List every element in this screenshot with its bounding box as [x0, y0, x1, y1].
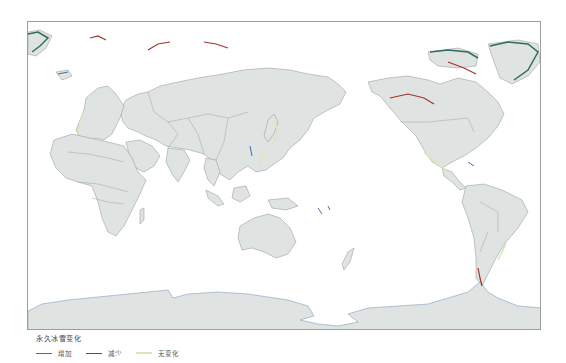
legend-item-increase: 增加	[36, 348, 72, 358]
decrease-novaya-zemlya	[148, 42, 170, 50]
madagascar-landmass	[140, 208, 144, 224]
legend-label: 增加	[58, 348, 72, 358]
australia-landmass	[238, 214, 296, 258]
increase-caribbean	[468, 162, 474, 166]
new-zealand-landmass	[342, 248, 354, 270]
legend-title: 永久冰雪变化	[36, 333, 193, 343]
legend-item-no-change: 无变化	[136, 348, 179, 358]
legend-item-decrease: 减少	[86, 348, 122, 358]
increase-pacific-islands	[318, 206, 330, 214]
new-guinea-landmass	[268, 198, 298, 210]
no-change-line-swatch	[136, 352, 152, 354]
decrease-svalbard	[90, 36, 106, 40]
india-landmass	[166, 148, 190, 182]
antarctica-landmass	[28, 282, 541, 330]
central-america-landmass	[442, 168, 466, 190]
borneo-landmass	[232, 186, 250, 202]
decrease-line-swatch	[86, 353, 102, 354]
south-america-landmass	[462, 184, 528, 286]
iceland-landmass	[56, 70, 72, 80]
north-america-landmass	[368, 76, 504, 168]
legend-label: 无变化	[158, 348, 179, 358]
sumatra-landmass	[206, 190, 224, 206]
map-frame	[27, 21, 541, 330]
world-map	[28, 22, 541, 330]
legend-label: 减少	[108, 348, 122, 358]
decrease-severnaya	[204, 42, 228, 48]
increase-line-swatch	[36, 353, 52, 354]
legend: 永久冰雪变化 增加 减少 无变化	[36, 333, 193, 358]
